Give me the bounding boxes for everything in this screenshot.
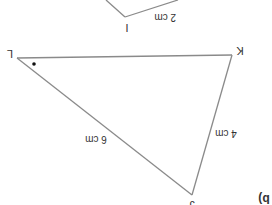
- partial-side-left: [106, 0, 125, 17]
- partial-triangle: 2 cm I: [106, 0, 178, 34]
- side-kj: [192, 55, 232, 195]
- vertex-label-k: K: [236, 45, 244, 57]
- angle-dot-marker: [32, 62, 36, 66]
- side-label-2cm: 2 cm: [154, 12, 176, 23]
- side-label-4cm: 4 cm: [215, 128, 237, 139]
- part-label-b: b): [258, 192, 269, 205]
- main-triangle: L K J 6 cm 4 cm: [7, 45, 244, 205]
- vertex-label-i: I: [125, 22, 128, 34]
- vertex-label-j: J: [189, 199, 195, 205]
- side-label-6cm: 6 cm: [85, 134, 107, 145]
- side-lj: [17, 58, 192, 195]
- vertex-label-l: L: [7, 48, 13, 60]
- side-lk: [17, 55, 232, 58]
- geometry-diagram: 2 cm I L K J 6 cm 4 cm b): [0, 0, 272, 205]
